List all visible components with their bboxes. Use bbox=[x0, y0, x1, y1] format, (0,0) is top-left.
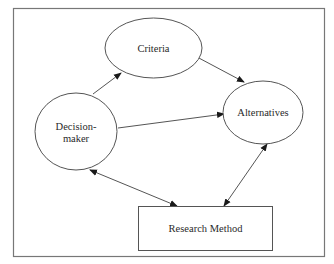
alternatives-label: Alternatives bbox=[237, 107, 288, 118]
criteria-label: Criteria bbox=[137, 43, 169, 54]
decision-maker-label-line2: maker bbox=[63, 133, 90, 144]
node-research-method: Research Method bbox=[139, 207, 273, 251]
node-decision-maker: Decision- maker bbox=[35, 93, 117, 170]
research-method-label: Research Method bbox=[169, 223, 244, 234]
node-criteria: Criteria bbox=[105, 18, 202, 78]
decision-diagram: Criteria Alternatives Decision- maker Re… bbox=[0, 0, 334, 264]
node-alternatives: Alternatives bbox=[223, 81, 303, 144]
decision-maker-label-line1: Decision- bbox=[56, 121, 97, 132]
